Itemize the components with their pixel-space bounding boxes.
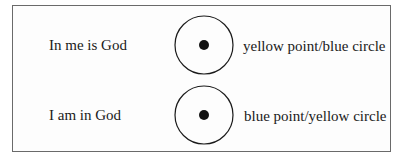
right-label-top: yellow point/blue circle — [243, 39, 385, 54]
left-label-bottom: I am in God — [49, 108, 121, 123]
right-label-bottom: blue point/yellow circle — [244, 109, 386, 124]
circle-point-top — [175, 16, 233, 74]
left-label-top: In me is God — [49, 38, 127, 53]
circles-graphic — [0, 0, 406, 161]
circle-point-bottom — [175, 86, 233, 144]
